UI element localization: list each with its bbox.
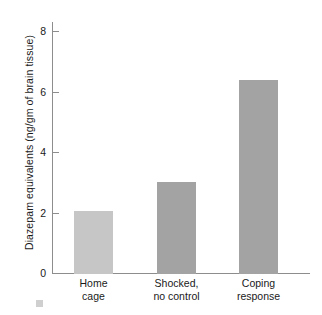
bar-chart-figure: Diazepam equivalents (ng/gm of brain tis… [0,0,322,315]
bar-2 [239,80,278,274]
page-corner-mark [36,300,43,307]
bar-1 [157,182,196,274]
x-axis-category-label: Shocked, no control [132,277,222,303]
bar-0 [74,211,113,275]
bars-layer [0,0,322,274]
x-axis-category-label: Coping response [214,277,304,303]
x-axis-category-label: Home cage [49,277,139,303]
